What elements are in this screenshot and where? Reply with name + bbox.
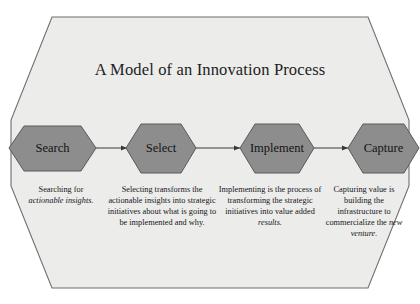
caption-search: Searching for actionable insights. — [22, 184, 100, 206]
caption-select: Selecting transforms the actionable insi… — [104, 184, 220, 228]
caption-capture-plain: Capturing value is building the infrastr… — [326, 185, 395, 227]
caption-capture: Capturing value is building the infrastr… — [322, 184, 406, 239]
caption-select-plain: Selecting transforms the actionable insi… — [108, 185, 217, 227]
caption-implement-italic: results. — [258, 218, 282, 227]
caption-search-italic: actionable insights. — [29, 196, 94, 205]
stage-label-capture[interactable]: Capture — [348, 142, 419, 155]
stage-label-search[interactable]: Search — [9, 142, 96, 155]
caption-search-plain: Searching for — [39, 185, 84, 194]
stage-label-select[interactable]: Select — [126, 142, 196, 155]
caption-implement: Implementing is the process of transform… — [217, 184, 323, 228]
innovation-process-diagram: A Model of an Innovation Process Search … — [0, 0, 420, 304]
page-title: A Model of an Innovation Process — [0, 60, 420, 80]
stage-label-implement[interactable]: Implement — [240, 142, 314, 155]
caption-implement-plain: Implementing is the process of transform… — [219, 185, 321, 216]
